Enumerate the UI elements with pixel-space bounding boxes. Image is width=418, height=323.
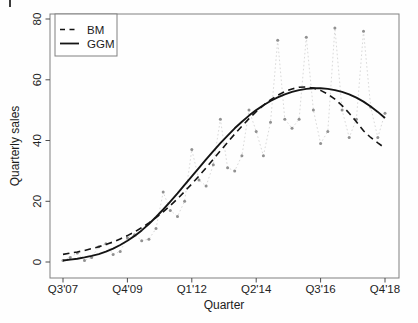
observed-data-point (198, 179, 201, 182)
observed-data-point (326, 130, 329, 133)
observed-data-point (248, 109, 251, 112)
observed-data-point (283, 118, 286, 121)
observed-data-point (240, 154, 243, 157)
x-axis-title: Quarter (204, 298, 245, 312)
observed-data-point (319, 142, 322, 145)
observed-data-point (147, 238, 150, 241)
observed-data-point (183, 200, 186, 203)
observed-data-point (262, 154, 265, 157)
legend-label-ggm: GGM (87, 38, 114, 50)
x-tick-label: Q4'18 (370, 283, 400, 295)
legend: BM GGM (55, 14, 117, 56)
y-tick-label: 60 (31, 73, 43, 86)
y-axis-title: Quarterly sales (8, 106, 22, 187)
y-tick-label: 80 (31, 13, 43, 26)
observed-data-point (333, 27, 336, 30)
observed-data-point (162, 191, 165, 194)
y-tick-label: 20 (31, 195, 43, 208)
observed-series-dotted-line (63, 28, 385, 260)
observed-data-point (291, 127, 294, 130)
observed-data-point (119, 250, 122, 253)
observed-data-point (269, 121, 272, 124)
observed-data-point (190, 148, 193, 151)
x-tick-label: Q4'09 (112, 283, 142, 295)
y-tick-label: 40 (31, 134, 43, 147)
bm-curve (63, 87, 385, 254)
x-tick-label: Q2'14 (241, 283, 272, 295)
observed-data-point (276, 39, 279, 42)
observed-data-point (233, 169, 236, 172)
x-tick-label: Q1'12 (177, 283, 207, 295)
observed-data-point (312, 109, 315, 112)
sales-forecast-chart: Q3'07Q4'09Q1'12Q2'14Q3'16Q4'18020406080 … (0, 0, 418, 323)
observed-data-point (112, 253, 115, 256)
observed-data-point (226, 166, 229, 169)
book-page-figure: Q3'07Q4'09Q1'12Q2'14Q3'16Q4'18020406080 … (0, 0, 418, 323)
observed-data-point (83, 259, 86, 262)
observed-data-point (155, 227, 158, 230)
legend-box (55, 14, 117, 56)
ggm-curve (63, 88, 385, 260)
y-tick-label: 0 (31, 259, 43, 265)
observed-data-point (126, 236, 129, 239)
observed-data-point (298, 118, 301, 121)
observed-data-point (176, 215, 179, 218)
observed-data-point (219, 118, 222, 121)
observed-data-point (348, 136, 351, 139)
legend-label-bm: BM (87, 24, 104, 36)
observed-data-point (140, 239, 143, 242)
x-tick-label: Q3'07 (48, 283, 78, 295)
observed-data-point (362, 30, 365, 33)
observed-data-point (205, 185, 208, 188)
x-tick-label: Q3'16 (305, 283, 335, 295)
observed-data-point (341, 109, 344, 112)
observed-data-point (212, 163, 215, 166)
observed-data-point (305, 36, 308, 39)
observed-data-point (384, 112, 387, 115)
observed-data-point (169, 209, 172, 212)
observed-data-point (255, 130, 258, 133)
observed-data-point (376, 136, 379, 139)
observed-data-point (69, 256, 72, 259)
